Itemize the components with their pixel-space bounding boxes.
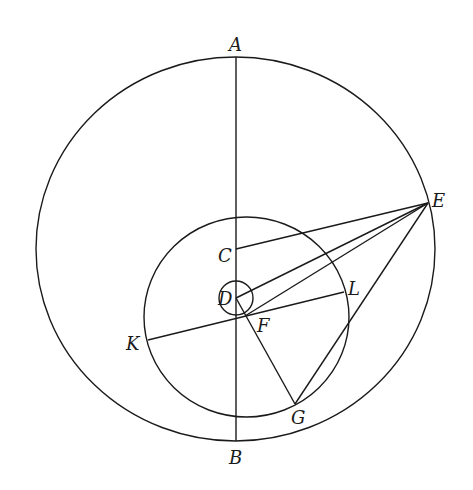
- point-label-K: K: [125, 333, 141, 354]
- labels-group: ABCDEFGKL: [125, 34, 445, 468]
- segment-ED: [236, 203, 428, 298]
- point-label-C: C: [218, 245, 232, 266]
- segments-group: [148, 57, 428, 441]
- point-label-L: L: [347, 278, 360, 299]
- point-label-G: G: [291, 407, 305, 428]
- geometry-diagram: ABCDEFGKL: [0, 0, 473, 490]
- point-label-F: F: [256, 315, 271, 336]
- segment-EC: [236, 203, 428, 249]
- point-label-E: E: [431, 190, 445, 211]
- segment-EG: [295, 203, 428, 404]
- point-label-D: D: [217, 288, 233, 309]
- point-label-A: A: [227, 34, 242, 55]
- point-label-B: B: [228, 447, 242, 468]
- segment-DG: [236, 298, 295, 404]
